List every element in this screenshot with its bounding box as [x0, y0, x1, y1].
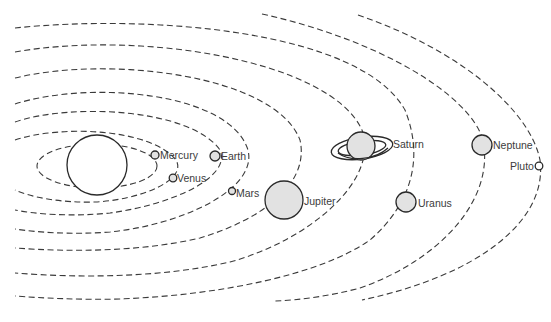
label-pluto: Pluto [510, 161, 534, 172]
label-uranus: Uranus [418, 198, 452, 209]
label-earth: Earth [221, 151, 246, 162]
planet-saturn [330, 132, 394, 163]
planet-uranus [396, 192, 416, 212]
label-mars: Mars [236, 188, 259, 199]
label-jupiter: Jupiter [304, 196, 336, 207]
orbit-jupiter [15, 69, 301, 250]
label-neptune: Neptune [493, 140, 533, 151]
planet-mercury [151, 151, 159, 159]
label-mercury: Mercury [160, 150, 198, 161]
planet-mars [229, 188, 236, 195]
planet-jupiter [265, 181, 303, 219]
orbit-pluto [358, 15, 541, 300]
planets [151, 132, 543, 219]
solar-system-diagram [0, 0, 551, 322]
planet-earth [210, 151, 220, 161]
planet-pluto [535, 162, 543, 170]
planet-venus [169, 174, 177, 182]
sun [67, 135, 127, 195]
label-saturn: Saturn [393, 139, 424, 150]
saturn-body [347, 132, 375, 160]
label-venus: Venus [177, 173, 206, 184]
planet-neptune [472, 135, 492, 155]
